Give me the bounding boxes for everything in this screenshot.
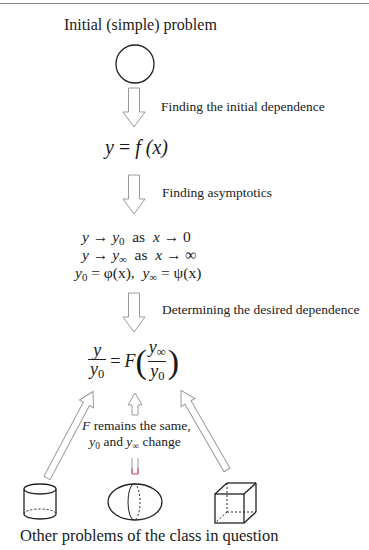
cube-shape [215,483,256,523]
final-equation: y y0 = F ( y∞ y0 ) [88,338,179,385]
invariance-note: F remains the same, y0 and y∞ change [82,418,188,454]
inner-fraction: y∞ y0 [147,338,168,385]
other-problems-title: Other problems of the class in question [20,526,278,546]
circle-shape [116,45,154,83]
asymptotics-line-3: y0 = φ(x), y∞ = ψ(x) [75,264,201,286]
lhs-fraction: y y0 [88,341,106,383]
cylinder-shape [24,484,56,519]
down-arrow-icon [123,293,145,332]
step-label-asymptotics: Finding asymptotics [162,185,272,201]
step-label-initial-dependence: Finding the initial dependence [161,99,325,115]
up-arrow-icon [128,393,142,415]
ellipsoid-shape [108,484,162,520]
down-arrow-icon [123,175,145,214]
initial-problem-title: Initial (simple) problem [64,16,217,34]
down-arrow-icon [123,88,145,127]
equation-y-equals-f-x: y = f (x) [105,136,168,159]
up-arrow-shaft [132,458,138,474]
step-label-desired-dependence: Determining the desired dependence [162,302,360,318]
